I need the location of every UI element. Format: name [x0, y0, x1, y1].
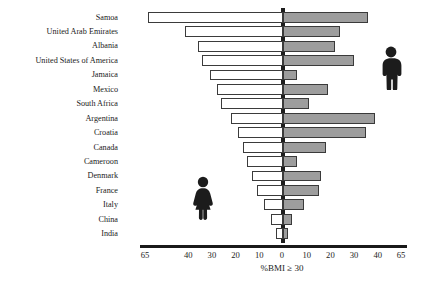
axis-tick-label: 65	[141, 250, 150, 260]
bar-female	[148, 12, 283, 23]
bar-female	[252, 171, 283, 182]
axis-tick-label: 20	[326, 250, 335, 260]
bar-male	[283, 185, 319, 196]
bar-male	[283, 41, 335, 52]
bar-female	[247, 156, 283, 167]
bar-male	[283, 214, 292, 225]
bar-male	[283, 98, 309, 109]
bar-male	[283, 156, 297, 167]
male-figure-icon	[378, 46, 404, 90]
bar-female	[210, 70, 283, 81]
bar-female	[264, 199, 283, 210]
bar-female	[185, 26, 283, 37]
bar-male	[283, 12, 368, 23]
axis-tick-label: 40	[184, 250, 193, 260]
bar-female	[271, 214, 283, 225]
bar-female	[217, 84, 283, 95]
bar-female	[238, 127, 283, 138]
x-axis-title: %BMI ≥ 30	[261, 263, 304, 273]
bar-male	[283, 228, 288, 239]
axis-tick-label: 20	[231, 250, 240, 260]
bar-male	[283, 84, 328, 95]
female-figure-icon	[190, 176, 216, 220]
bar-male	[283, 142, 326, 153]
bar-female	[231, 113, 283, 124]
bar-female	[276, 228, 283, 239]
axis-tick-label: 40	[374, 250, 383, 260]
bar-male	[283, 127, 366, 138]
bar-female	[221, 98, 283, 109]
bar-female	[198, 41, 283, 52]
bar-male	[283, 113, 375, 124]
bar-female	[257, 185, 283, 196]
bar-female	[243, 142, 283, 153]
bar-female	[202, 55, 283, 66]
axis-tick-label: 10	[255, 250, 264, 260]
axis-tick-label: 65	[397, 250, 406, 260]
axis-tick-label: 30	[208, 250, 217, 260]
bar-male	[283, 70, 297, 81]
bar-male	[283, 171, 321, 182]
bar-male	[283, 55, 354, 66]
axis-tick-label: 10	[302, 250, 311, 260]
axis-tick-label: 0	[280, 250, 284, 260]
bar-male	[283, 199, 304, 210]
value-axis-line	[140, 245, 407, 248]
bmi-diverging-bar-chart: SamoaUnited Arab EmiratesAlbaniaUnited S…	[0, 0, 429, 289]
axis-tick-label: 30	[350, 250, 359, 260]
bar-male	[283, 26, 340, 37]
